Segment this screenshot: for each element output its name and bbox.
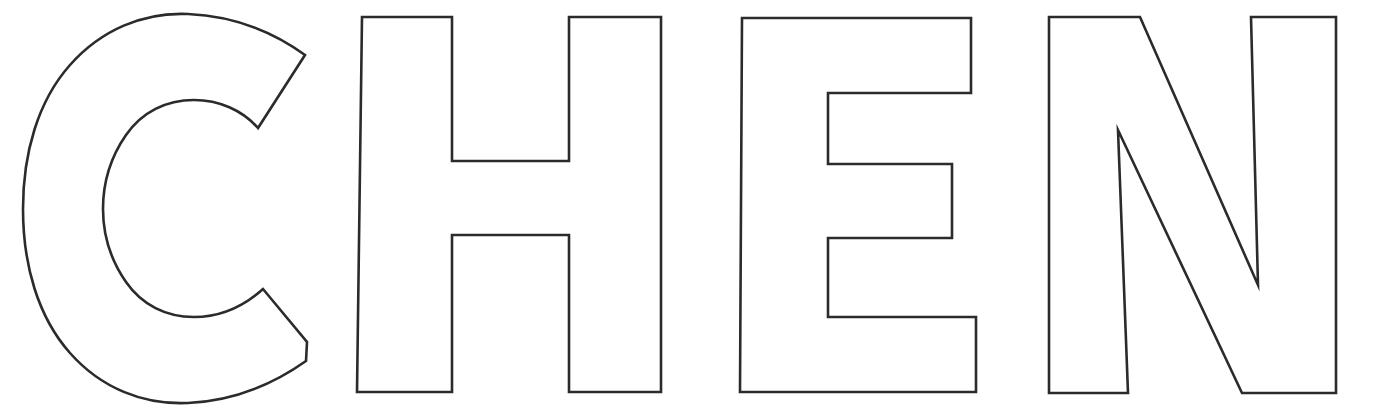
letter-n-group[interactable]: [1049, 17, 1336, 393]
letter-c-outline[interactable]: [23, 14, 307, 403]
letter-h-outline[interactable]: [357, 17, 661, 392]
letter-h-group[interactable]: [357, 17, 661, 392]
letter-e-group[interactable]: [740, 18, 976, 392]
letter-template-canvas: CHEN: [0, 0, 1396, 417]
letter-n-outline[interactable]: [1049, 17, 1336, 393]
letter-c-group[interactable]: [23, 14, 307, 403]
letters-artboard: [0, 0, 1396, 417]
letter-e-outline[interactable]: [740, 18, 976, 392]
